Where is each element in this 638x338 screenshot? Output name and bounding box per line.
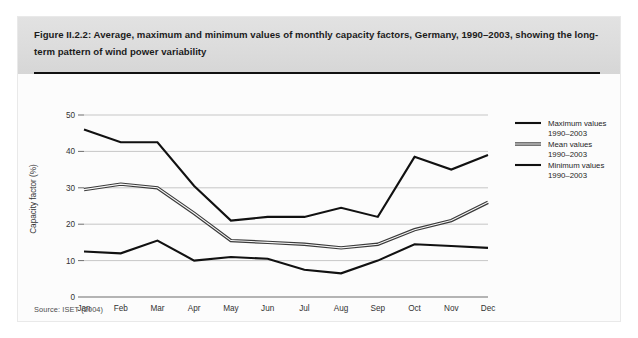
x-tick-label: Feb (114, 304, 129, 313)
y-tick-label: 50 (66, 111, 76, 120)
x-tick-label: Oct (408, 304, 421, 313)
y-tick-label: 20 (66, 220, 76, 229)
legend-group: Maximum values1990–2003Mean values1990–2… (515, 119, 607, 180)
y-tick-label: 30 (66, 184, 76, 193)
x-tick-label: Jun (261, 304, 275, 313)
legend-label-primary: Maximum values (548, 119, 607, 128)
y-tick-label: 0 (70, 293, 75, 302)
series-line-minimum (84, 241, 488, 274)
x-tick-label: Dec (481, 304, 496, 313)
y-tick-label: 40 (66, 147, 76, 156)
legend-label-years: 1990–2003 (548, 129, 587, 138)
y-tick-labels-group: 01020304050 (66, 111, 76, 302)
x-tick-label: Aug (334, 304, 349, 313)
x-tick-label: Apr (188, 304, 201, 313)
x-tick-label: Jul (299, 304, 310, 313)
figure-container: Figure II.2.2: Average, maximum and mini… (18, 17, 620, 321)
x-tick-label: Sep (371, 304, 386, 313)
legend-label-primary: Mean values (548, 140, 592, 149)
line-chart: 01020304050 JanFebMarAprMayJunJulAugSepO… (18, 74, 620, 321)
legend-label-primary: Minimum values (548, 161, 604, 170)
plot-area: 01020304050 JanFebMarAprMayJunJulAugSepO… (18, 74, 620, 321)
x-tick-label: Nov (444, 304, 459, 313)
x-tick-labels-group: JanFebMarAprMayJunJulAugSepOctNovDec (77, 304, 495, 313)
figure-caption: Figure II.2.2: Average, maximum and mini… (34, 26, 600, 60)
x-tick-label: May (223, 304, 239, 313)
figure-source-note: Source: ISET (2004) (34, 305, 103, 314)
legend-label-years: 1990–2003 (548, 171, 587, 180)
legend-label-years: 1990–2003 (548, 150, 587, 159)
y-axis-title: Capacity factor (%) (29, 164, 38, 234)
series-line-maximum (84, 130, 488, 221)
y-tick-label: 10 (66, 257, 76, 266)
x-tick-label: Mar (150, 304, 164, 313)
